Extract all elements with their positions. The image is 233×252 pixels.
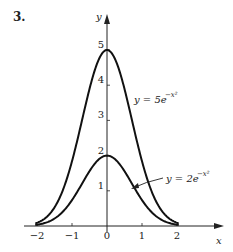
svg-text:−x²: −x² <box>197 170 210 178</box>
label-5e-text: y = 5e <box>133 94 167 105</box>
label-2e-exp: −x² <box>197 170 210 178</box>
svg-text:−x²: −x² <box>165 91 178 99</box>
label-5e-exp: −x² <box>165 91 178 99</box>
y-axis-arrow-icon <box>104 14 110 24</box>
x-axis-label: x <box>216 235 222 246</box>
y-tick-label: 4 <box>98 74 104 85</box>
y-tick-label: 1 <box>98 180 104 191</box>
x-tick-label: 2 <box>174 230 180 241</box>
x-tick-label: −2 <box>30 230 45 241</box>
x-tick-label: 0 <box>104 230 110 241</box>
y-tick-label: 3 <box>98 109 104 120</box>
x-tick-label: 1 <box>139 230 145 241</box>
chart: −2−1012 12345 y x y = 5e −x² y = 2e −x² <box>0 0 233 252</box>
y-tick-label: 2 <box>98 145 104 156</box>
y-tick-label: 5 <box>98 39 104 50</box>
label-2e-text: y = 2e <box>165 173 199 184</box>
label-5e-neg-x2: y = 5e −x² <box>133 91 178 105</box>
label-2e-neg-x2: y = 2e −x² <box>131 170 210 189</box>
svg-text:y = 2e: y = 2e <box>165 173 199 184</box>
y-ticks: 12345 <box>98 39 110 191</box>
x-tick-label: −1 <box>65 230 80 241</box>
y-axis-label: y <box>95 11 102 22</box>
x-axis-arrow-icon <box>214 223 224 229</box>
svg-text:y = 5e: y = 5e <box>133 94 167 105</box>
